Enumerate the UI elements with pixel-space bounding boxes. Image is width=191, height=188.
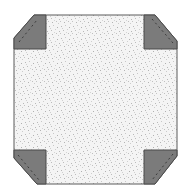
chamfered-square-diagram (0, 0, 191, 188)
corner-patch-top-left (14, 15, 46, 49)
corner-fill (14, 15, 46, 49)
corner-fill (144, 15, 177, 49)
corner-patch-bottom-right (144, 150, 177, 184)
corner-fill (14, 150, 46, 184)
corner-patch-top-right (144, 15, 177, 49)
corner-patch-bottom-left (14, 150, 46, 184)
